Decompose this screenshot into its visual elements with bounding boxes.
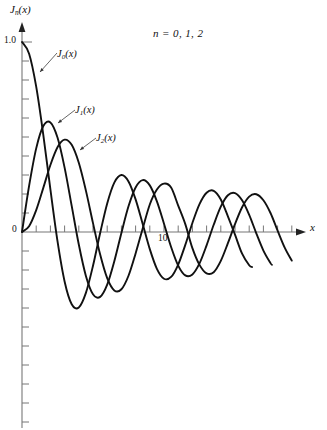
curve-label-j2: J2(x) [96,133,116,145]
curve-label-j1: J1(x) [75,105,95,117]
y-tick-label-0: 0 [12,225,17,235]
y-axis-label-tail: (x) [19,3,31,15]
plot-title: n = 0, 1, 2 [153,28,203,39]
curve-label-j1-tail: (x) [83,104,95,115]
x-axis-label: x [310,222,315,233]
x-axis-arrowhead [296,229,306,236]
y-axis-label: Jn(x) [10,4,31,17]
curve-label-j0-tail: (x) [65,48,77,59]
leader-lines-layer [40,53,96,150]
y-tick-label-1.0: 1.0 [4,36,16,46]
curve-label-j2-tail: (x) [104,132,116,143]
curve-j1 [22,122,272,298]
curve-label-j0: J0(x) [57,49,77,61]
axes-layer [19,22,306,428]
bessel-function-figure: Jn(x) n = 0, 1, 2 J0(x) J1(x) J2(x) 1.0 … [0,0,327,430]
curves-layer [22,42,292,308]
plot-canvas [0,0,327,430]
x-tick-label-10: 10 [158,234,168,244]
y-axis-arrowhead [19,22,26,32]
